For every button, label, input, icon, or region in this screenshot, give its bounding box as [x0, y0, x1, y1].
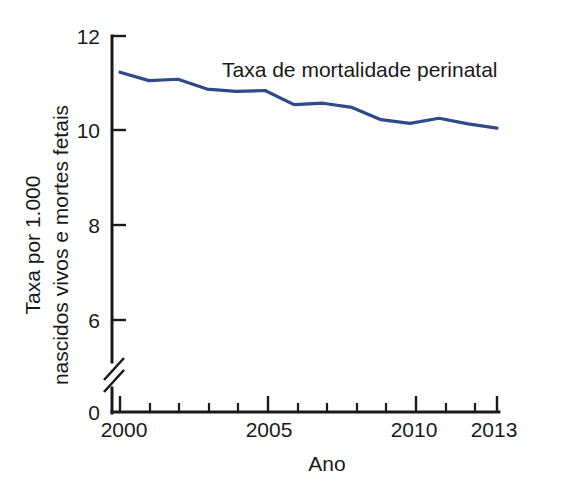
perinatal-mortality-line-chart: 12 10 8 6 0 Taxa por 1.000 nascidos vivo… — [0, 0, 563, 486]
x-axis-title: Ano — [308, 452, 345, 475]
x-tick-label-2013: 2013 — [471, 418, 518, 441]
x-tick-label-2000: 2000 — [101, 418, 148, 441]
y-tick-label-6: 6 — [88, 309, 100, 332]
y-tick-label-12: 12 — [77, 25, 100, 48]
x-tick-label-2005: 2005 — [246, 418, 293, 441]
y-tick-label-0: 0 — [88, 401, 100, 424]
y-tick-label-8: 8 — [88, 214, 100, 237]
y-tick-label-10: 10 — [77, 119, 100, 142]
y-axis-title-line1: Taxa por 1.000 — [21, 176, 44, 315]
chart-figure: 12 10 8 6 0 Taxa por 1.000 nascidos vivo… — [0, 0, 563, 486]
series-annotation-label: Taxa de mortalidade perinatal — [222, 58, 498, 81]
x-tick-label-2010: 2010 — [391, 418, 438, 441]
y-axis-title-line2: nascidos vivos e mortes fetais — [49, 105, 72, 385]
